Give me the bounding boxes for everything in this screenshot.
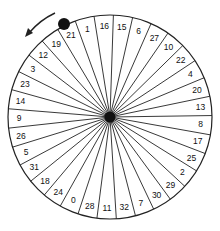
sector-number: 8	[198, 119, 203, 129]
sector-divider	[110, 116, 212, 117]
sector-number: 7	[139, 198, 144, 208]
sector-divider	[29, 55, 110, 117]
sector-number: 31	[29, 162, 39, 172]
sector-divider	[110, 33, 168, 117]
sector-divider	[110, 117, 185, 186]
sector-number: 23	[20, 79, 30, 89]
sector-number: 22	[176, 55, 186, 65]
sector-number: 10	[164, 42, 174, 52]
sector-number: 2	[180, 167, 185, 177]
sector-number: 26	[16, 131, 26, 141]
roulette-wheel-diagram: 1615627102242013817252293073211280241831…	[0, 0, 220, 231]
sector-number: 30	[152, 190, 162, 200]
sector-divider	[31, 117, 110, 181]
sector-number: 29	[166, 180, 176, 190]
ball-icon	[58, 18, 70, 30]
sector-number: 25	[187, 153, 197, 163]
sector-divider	[110, 15, 113, 117]
sector-divider	[110, 18, 133, 117]
curved-arrow-counterclockwise-icon	[25, 13, 55, 37]
sector-number: 18	[40, 176, 50, 186]
sector-number: 19	[51, 39, 61, 49]
sector-number: 0	[71, 195, 76, 205]
sector-divider	[110, 117, 170, 199]
sector-number: 3	[30, 64, 35, 74]
sector-number: 13	[196, 102, 206, 112]
sector-divider	[110, 78, 204, 117]
sector-number: 17	[193, 136, 203, 146]
sector-number: 9	[17, 113, 22, 123]
sector-number: 12	[39, 50, 49, 60]
sector-number: 16	[100, 21, 110, 31]
sector-number: 6	[136, 26, 141, 36]
sector-divider	[44, 117, 110, 195]
sector-number: 11	[103, 203, 112, 213]
sector-number: 20	[192, 85, 202, 95]
sector-divider	[110, 46, 183, 117]
sector-number: 32	[120, 202, 130, 212]
sector-number: 27	[150, 33, 160, 43]
sector-number: 28	[85, 201, 95, 211]
sector-number: 24	[54, 187, 64, 197]
sector-number: 4	[188, 69, 193, 79]
sector-number: 15	[117, 22, 127, 32]
sector-number: 1	[85, 24, 90, 34]
hub-icon	[105, 112, 116, 123]
sector-number: 14	[16, 96, 26, 106]
sector-number: 5	[24, 147, 29, 157]
sector-divider	[9, 117, 110, 128]
sector-number: 21	[66, 30, 76, 40]
